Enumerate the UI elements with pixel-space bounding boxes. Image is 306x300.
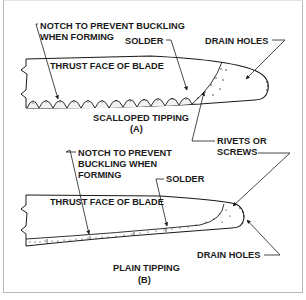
rivets-label-line2: SCREWS (217, 147, 257, 157)
caption-a-letter: (A) (130, 124, 143, 134)
solder-leader-a (166, 40, 187, 90)
caption-b-letter: (B) (138, 275, 151, 285)
caption-b: PLAIN TIPPING (113, 263, 180, 273)
scalloped-tipping-figure: NOTCH TO PREVENT BUCKLING WHEN FORMING S… (21, 21, 285, 134)
tip-solder-line-a (192, 62, 222, 104)
propeller-tipping-diagram: NOTCH TO PREVENT BUCKLING WHEN FORMING S… (0, 0, 306, 300)
caption-a: SCALLOPED TIPPING (93, 113, 189, 123)
break-line-a (21, 59, 27, 108)
notch-label-b: NOTCH TO PREVENT (78, 148, 172, 158)
scallops (27, 98, 192, 108)
notch-label-a: NOTCH TO PREVENT BUCKLING (40, 21, 185, 31)
rivets-leader-b (233, 153, 290, 206)
strip-rivet-dots (29, 209, 230, 242)
blade-label-a: THRUST FACE OF BLADE (50, 61, 164, 71)
rivets-leader-a (192, 92, 215, 141)
rivets-label: RIVETS OR (217, 136, 267, 146)
drain-holes-label-b: DRAIN HOLES (197, 250, 260, 260)
break-line-b (21, 195, 27, 246)
blade-label-b: THRUST FACE OF BLADE (50, 197, 164, 207)
solder-label-b: SOLDER (166, 174, 205, 184)
tipping-strip-line (26, 204, 224, 239)
notch-label-b-line2: BUCKLING WHEN (78, 159, 157, 169)
notch-label-b-line3: FORMING (78, 170, 121, 180)
rivets-label-group: RIVETS OR SCREWS (192, 92, 290, 206)
notch-label-a-line2: WHEN FORMING (40, 32, 114, 42)
plain-tipping-figure: NOTCH TO PREVENT BUCKLING WHEN FORMING S… (21, 148, 280, 285)
drain-holes-label-a: DRAIN HOLES (205, 36, 268, 46)
solder-label-a: SOLDER (125, 36, 164, 46)
